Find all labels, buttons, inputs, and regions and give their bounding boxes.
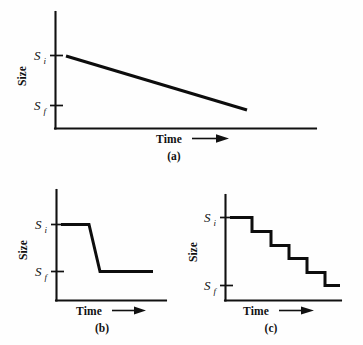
panel-a-right-arrow-icon	[192, 134, 229, 143]
panel-c-label-si-sub: i	[214, 218, 217, 228]
panel-a: S i S f Size Time (a)	[16, 12, 316, 163]
panel-b-label-sf: S f	[35, 264, 49, 282]
panel-b-label-si-base: S	[35, 217, 42, 232]
panel-a-label-sf-base: S	[34, 98, 41, 113]
panel-b: S i S f Size Time (b)	[17, 190, 166, 335]
panel-b-y-axis-label: Size	[17, 240, 29, 260]
panel-a-label-si: S i	[34, 48, 47, 66]
panel-b-label-sf-sub: f	[45, 272, 49, 282]
panel-c-label-si-base: S	[204, 210, 211, 225]
panel-a-label-si-base: S	[34, 48, 41, 63]
panel-b-data-line	[61, 225, 153, 272]
panel-c-caption: (c)	[265, 322, 278, 335]
panel-b-caption: (b)	[95, 322, 109, 335]
panel-b-label-sf-base: S	[35, 264, 42, 279]
panel-a-label-sf: S f	[34, 98, 48, 116]
panel-b-x-axis-label: Time	[76, 305, 102, 317]
panel-c-x-axis-label: Time	[243, 305, 269, 317]
panel-c-label-sf-base: S	[204, 278, 211, 293]
figure-container: S i S f Size Time (a)	[0, 0, 363, 345]
panel-a-caption: (a)	[167, 150, 181, 163]
panel-c: S i S f Size Time (c)	[187, 195, 341, 335]
panel-a-label-si-sub: i	[44, 56, 47, 66]
panel-c-label-sf-sub: f	[214, 286, 218, 296]
panel-a-x-axis-label: Time	[156, 133, 182, 145]
panel-c-data-line	[230, 218, 340, 286]
panel-c-right-arrow-icon	[279, 306, 314, 314]
panel-b-label-si-sub: i	[45, 225, 48, 235]
panel-c-label-si: S i	[204, 210, 217, 228]
figure-svg: S i S f Size Time (a)	[0, 0, 363, 345]
panel-b-right-arrow-icon	[112, 306, 146, 314]
panel-c-label-sf: S f	[204, 278, 218, 296]
panel-c-y-axis-label: Size	[187, 242, 199, 262]
panel-a-y-axis-label: Size	[16, 66, 28, 86]
panel-a-data-line	[66, 56, 247, 110]
panel-b-label-si: S i	[35, 217, 48, 235]
panel-a-label-sf-sub: f	[44, 106, 48, 116]
